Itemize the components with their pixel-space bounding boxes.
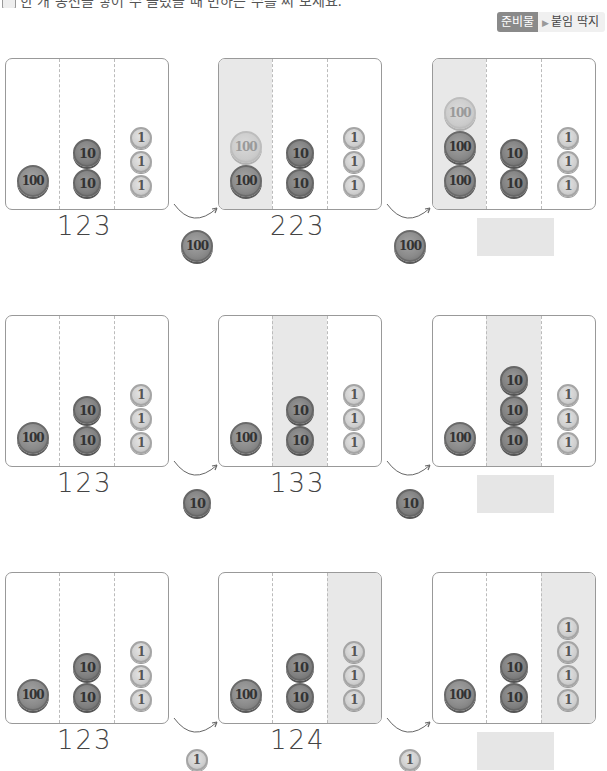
coin-100-icon: 100 xyxy=(444,97,476,129)
coin-1-icon: 1 xyxy=(130,665,152,687)
checkbox-icon xyxy=(2,0,16,8)
tens-column: 1010 xyxy=(272,59,326,209)
curved-arrow-icon xyxy=(171,714,223,740)
coin-10-icon: 10 xyxy=(73,426,101,454)
tens-column: 1010 xyxy=(59,316,113,466)
tens-coin-stack: 101010 xyxy=(487,364,540,454)
coin-1-icon: 1 xyxy=(557,408,579,430)
ones-coin-stack: 111 xyxy=(328,639,381,711)
hundreds-column: 100 xyxy=(433,573,486,723)
number-label: 223 xyxy=(270,211,326,241)
coin-10-icon: 10 xyxy=(286,653,314,681)
added-coin-1-icon: 1 xyxy=(186,749,208,771)
number-label: 133 xyxy=(270,468,326,498)
coin-1-icon: 1 xyxy=(557,151,579,173)
coin-100-icon: 100 xyxy=(444,422,476,454)
tens-coin-stack: 1010 xyxy=(273,394,326,454)
number-label: 123 xyxy=(57,468,113,498)
coin-1-icon: 1 xyxy=(557,127,579,149)
coin-10-icon: 10 xyxy=(500,396,528,424)
ones-coin-stack: 111 xyxy=(115,639,168,711)
coin-1-icon: 1 xyxy=(130,384,152,406)
ones-column: 111 xyxy=(327,573,381,723)
coin-100-icon: 100 xyxy=(17,422,49,454)
added-coin-10-icon: 10 xyxy=(183,489,211,517)
materials-label: ▶붙임 딱지 xyxy=(538,12,605,32)
tens-coin-stack: 1010 xyxy=(487,137,540,197)
curved-arrow-icon xyxy=(171,200,223,226)
triangle-right-icon: ▶ xyxy=(542,18,549,28)
coin-10-icon: 10 xyxy=(500,169,528,197)
ones-column: 111 xyxy=(114,573,168,723)
coin-1-icon: 1 xyxy=(343,665,365,687)
coin-100-icon: 100 xyxy=(230,422,262,454)
coin-1-icon: 1 xyxy=(343,384,365,406)
curved-arrow-icon xyxy=(384,200,436,226)
coin-100-icon: 100 xyxy=(444,679,476,711)
curved-arrow-icon xyxy=(384,457,436,483)
tens-column: 1010 xyxy=(486,59,540,209)
coin-1-icon: 1 xyxy=(130,432,152,454)
place-value-board: 1001001001010111 xyxy=(432,58,596,210)
hundreds-column: 100 xyxy=(433,316,486,466)
coin-1-icon: 1 xyxy=(557,617,579,639)
tens-coin-stack: 1010 xyxy=(60,651,113,711)
ones-column: 111 xyxy=(541,316,595,466)
ones-coin-stack: 111 xyxy=(115,382,168,454)
materials-tag: 준비물 xyxy=(497,12,538,32)
hundreds-coin-stack: 100 xyxy=(433,677,486,711)
ones-coin-stack: 111 xyxy=(542,125,595,197)
coin-10-icon: 10 xyxy=(286,169,314,197)
hundreds-coin-stack: 100 xyxy=(6,677,59,711)
tens-coin-stack: 1010 xyxy=(273,137,326,197)
hundreds-column: 100100 xyxy=(219,59,272,209)
added-coin-100-icon: 100 xyxy=(394,230,426,262)
tens-coin-stack: 1010 xyxy=(60,394,113,454)
tens-coin-stack: 1010 xyxy=(487,651,540,711)
place-value-board: 1001010111 xyxy=(5,572,169,724)
coin-10-icon: 10 xyxy=(286,396,314,424)
hundreds-column: 100 xyxy=(6,316,59,466)
coin-1-icon: 1 xyxy=(343,641,365,663)
place-value-board: 10010101111 xyxy=(432,572,596,724)
coin-1-icon: 1 xyxy=(557,175,579,197)
ones-coin-stack: 1111 xyxy=(542,615,595,711)
place-value-board: 1001010111 xyxy=(218,572,382,724)
coin-1-icon: 1 xyxy=(557,384,579,406)
curved-arrow-icon xyxy=(171,457,223,483)
hundreds-column: 100 xyxy=(219,316,272,466)
added-coin-1-icon: 1 xyxy=(399,749,421,771)
added-coin-10-icon: 10 xyxy=(396,489,424,517)
tens-column: 1010 xyxy=(59,573,113,723)
coin-10-icon: 10 xyxy=(500,139,528,167)
ones-column: 1111 xyxy=(541,573,595,723)
ones-column: 111 xyxy=(114,59,168,209)
ones-coin-stack: 111 xyxy=(542,382,595,454)
coin-1-icon: 1 xyxy=(557,665,579,687)
tens-coin-stack: 1010 xyxy=(273,651,326,711)
coin-10-icon: 10 xyxy=(500,683,528,711)
hundreds-coin-stack: 100 xyxy=(6,163,59,197)
coin-10-icon: 10 xyxy=(73,653,101,681)
coin-1-icon: 1 xyxy=(343,127,365,149)
coin-10-icon: 10 xyxy=(286,683,314,711)
coin-1-icon: 1 xyxy=(343,175,365,197)
coin-1-icon: 1 xyxy=(557,641,579,663)
answer-sticker-box[interactable] xyxy=(477,732,554,770)
tens-coin-stack: 1010 xyxy=(60,137,113,197)
instruction-text: 한 개 동전을 넣어 수 올렸을 때 변하는 수를 써 보세요. xyxy=(0,0,607,8)
number-label: 123 xyxy=(57,725,113,755)
place-value-board: 1001001010111 xyxy=(218,58,382,210)
number-label: 124 xyxy=(270,725,326,755)
answer-sticker-box[interactable] xyxy=(477,218,554,256)
coin-1-icon: 1 xyxy=(557,689,579,711)
materials-badge: 준비물 ▶붙임 딱지 xyxy=(497,12,605,32)
tens-column: 1010 xyxy=(272,316,326,466)
coin-100-icon: 100 xyxy=(17,679,49,711)
ones-coin-stack: 111 xyxy=(115,125,168,197)
tens-column: 1010 xyxy=(272,573,326,723)
place-value-board: 100101010111 xyxy=(432,315,596,467)
place-value-board: 1001010111 xyxy=(5,58,169,210)
coin-10-icon: 10 xyxy=(286,139,314,167)
answer-sticker-box[interactable] xyxy=(477,475,554,513)
